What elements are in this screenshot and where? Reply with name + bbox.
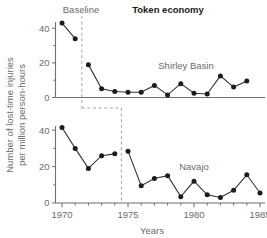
data-line-baseline — [62, 23, 75, 39]
y-axis-title-line2: per million person-hours — [16, 64, 27, 166]
series-label-shirley-basin: Shirley Basin — [158, 60, 213, 71]
y-tick-label: 0 — [44, 197, 49, 208]
y-tick-label: 0 — [44, 92, 49, 103]
data-point — [86, 166, 91, 171]
data-point — [73, 36, 78, 41]
data-point — [60, 21, 65, 26]
data-point — [244, 172, 249, 177]
chart-title-token-economy: Token economy — [132, 4, 204, 15]
series-label-navajo: Navajo — [179, 161, 209, 172]
data-line-baseline — [62, 127, 115, 168]
data-point — [165, 173, 170, 178]
data-line-token-economy — [128, 151, 260, 197]
data-point — [231, 188, 236, 193]
data-point — [192, 179, 197, 184]
data-point — [218, 73, 223, 78]
data-point — [112, 89, 117, 94]
data-point — [205, 92, 210, 97]
data-point — [99, 153, 104, 158]
data-point — [139, 90, 144, 95]
x-tick-label: 1970 — [51, 209, 72, 220]
data-point — [60, 125, 65, 130]
x-axis-title: Years — [140, 225, 164, 236]
phase-change-lines — [82, 16, 122, 203]
phase-label-baseline: Baseline — [63, 4, 99, 15]
data-point — [178, 81, 183, 86]
data-point — [139, 183, 144, 188]
data-point — [73, 146, 78, 151]
x-tick-label: 1985 — [249, 209, 267, 220]
data-point — [112, 151, 117, 156]
data-point — [126, 90, 131, 95]
data-point — [205, 192, 210, 197]
data-point — [126, 149, 131, 154]
data-point — [178, 194, 183, 199]
y-tick-label: 20 — [39, 57, 50, 68]
data-point — [218, 195, 223, 200]
x-tick-label: 1975 — [117, 209, 138, 220]
y-tick-label: 40 — [39, 125, 50, 136]
data-point — [244, 79, 249, 84]
multiple-baseline-line-chart: Baseline Token economy Number of lost-ti… — [0, 0, 267, 238]
data-point — [192, 91, 197, 96]
y-axis-title-line1: Number of lost-time injuries — [4, 57, 15, 173]
data-point — [152, 83, 157, 88]
data-point — [86, 62, 91, 67]
x-tick-label: 1980 — [183, 209, 204, 220]
data-point — [99, 86, 104, 91]
panel-navajo: 020401970197519801985 — [39, 125, 267, 220]
data-point — [231, 85, 236, 90]
panel-shirley-basin: 02040 — [39, 21, 265, 103]
data-point — [165, 92, 170, 97]
figure-container: Baseline Token economy Number of lost-ti… — [0, 0, 267, 238]
y-tick-label: 20 — [39, 161, 50, 172]
data-point — [258, 190, 263, 195]
y-tick-label: 40 — [39, 23, 50, 34]
data-point — [152, 176, 157, 181]
